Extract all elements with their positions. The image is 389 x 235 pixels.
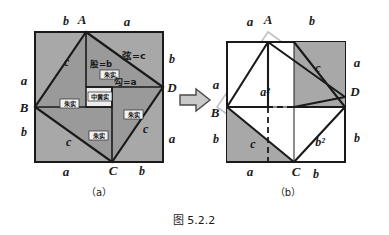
panel-a-vertex-C: C xyxy=(109,163,118,178)
zhong-huang-shi-label: 中黄实 xyxy=(91,93,109,101)
pythagorean-proof-figure: 朱实 朱实 朱实 朱实 中黄实 股=b 弦=c 勾=a c c c A B C … xyxy=(0,0,389,235)
panel-b-vertex-B: B xyxy=(210,105,220,120)
panel-b-area-label-a-squared: a² xyxy=(260,85,270,99)
panel-b-vertex-D: D xyxy=(349,84,360,99)
panel-a-vertex-A: A xyxy=(77,12,87,27)
panel-b-label-left-bottom: b xyxy=(213,132,219,146)
panel-a-label-left-top: a xyxy=(21,73,28,88)
panel-b: a² b² c c A B C D a b a b a b a b （b） xyxy=(210,12,361,198)
panel-b-label-bottom-right: b xyxy=(313,167,319,181)
xian-annotation: 弦=c xyxy=(122,50,146,61)
panel-a-label-top-left: b xyxy=(63,14,69,28)
panel-b-side-label-lower-left: c xyxy=(250,137,256,151)
panel-a-vertex-B: B xyxy=(19,100,29,115)
zhu-shi-label-right: 朱实 xyxy=(128,111,140,119)
panel-b-label-left-top: a xyxy=(213,77,220,92)
panel-b-label-top-right: b xyxy=(309,14,315,28)
panel-a: 朱实 朱实 朱实 朱实 中黄实 股=b 弦=c 勾=a c c c A B C … xyxy=(19,12,178,198)
panel-a-side-label-lower-left: c xyxy=(66,135,72,149)
panel-b-area-label-b-squared: b² xyxy=(315,135,325,149)
panel-b-tag: （b） xyxy=(275,187,301,198)
panel-a-side-label-lower-right: c xyxy=(143,122,149,136)
panel-a-label-bottom-right: b xyxy=(139,164,145,178)
gou-annotation: 勾=a xyxy=(114,76,137,87)
zhu-shi-label-left: 朱实 xyxy=(64,100,76,108)
panel-b-vertex-A: A xyxy=(263,12,273,27)
panel-a-label-left-bottom: b xyxy=(21,125,27,139)
gu-annotation: 股=b xyxy=(90,59,112,69)
zhu-shi-label-bottom: 朱实 xyxy=(93,132,105,140)
panel-b-label-right-top: a xyxy=(354,55,361,70)
right-arrow-icon xyxy=(180,89,210,111)
panel-b-side-label-upper-right: c xyxy=(315,61,321,75)
panel-b-label-bottom-left: a xyxy=(247,164,254,179)
panel-a-tag: （a） xyxy=(86,187,112,198)
panel-a-side-label-upper-left: c xyxy=(64,55,70,69)
panel-b-label-top-left: a xyxy=(247,14,254,29)
figure-caption: 图 5.2.2 xyxy=(173,214,216,227)
panel-a-label-right-bottom: a xyxy=(169,131,176,146)
figure-container: 朱实 朱实 朱实 朱实 中黄实 股=b 弦=c 勾=a c c c A B C … xyxy=(0,0,389,235)
panel-b-label-right-bottom: b xyxy=(354,131,360,145)
panel-b-vertex-C: C xyxy=(292,164,301,179)
panel-a-label-right-top: b xyxy=(169,52,175,66)
panel-a-label-bottom-left: a xyxy=(63,164,70,179)
transform-arrow xyxy=(180,89,210,111)
panel-a-vertex-D: D xyxy=(166,80,177,95)
panel-a-label-top-right: a xyxy=(124,14,131,29)
